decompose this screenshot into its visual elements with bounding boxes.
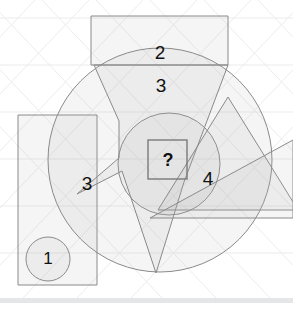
bottom-bar [0, 298, 293, 317]
label-question: ? [163, 150, 174, 170]
label-three-left: 3 [82, 173, 93, 194]
label-two: 2 [155, 42, 166, 63]
label-three-top: 3 [156, 75, 167, 96]
label-one: 1 [43, 249, 52, 268]
figure-canvas: 2 3 3 4 ? 1 [0, 0, 293, 317]
bottom-divider [0, 298, 293, 303]
geometric-figure: 2 3 3 4 ? 1 [0, 0, 293, 317]
label-four: 4 [203, 168, 214, 189]
